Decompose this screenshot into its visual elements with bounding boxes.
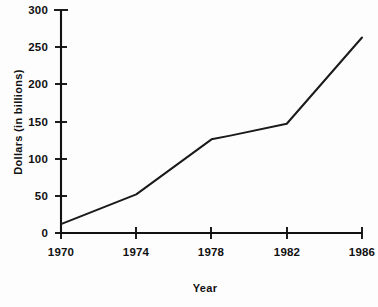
x-tick-label-1970: 1970 [48,246,74,258]
y-tick-label-50: 50 [35,190,48,202]
line-chart-figure: 300 250 200 150 100 50 0 1970 1974 1978 … [0,0,378,307]
x-tick-label-1986: 1986 [349,246,375,258]
chart-canvas: 300 250 200 150 100 50 0 1970 1974 1978 … [0,0,378,307]
x-tick-label-1978: 1978 [198,246,225,258]
y-tick-label-0: 0 [41,227,48,239]
y-tick-label-250: 250 [28,41,48,53]
y-tick-label-150: 150 [28,116,48,128]
x-axis-title: Year [193,282,218,294]
y-tick-label-300: 300 [28,4,48,16]
y-tick-label-100: 100 [28,153,48,165]
y-axis-title: Dollars (in billions) [12,69,24,174]
x-tick-label-1982: 1982 [274,246,300,258]
x-tick-label-1974: 1974 [123,246,150,258]
y-tick-label-200: 200 [28,78,48,90]
